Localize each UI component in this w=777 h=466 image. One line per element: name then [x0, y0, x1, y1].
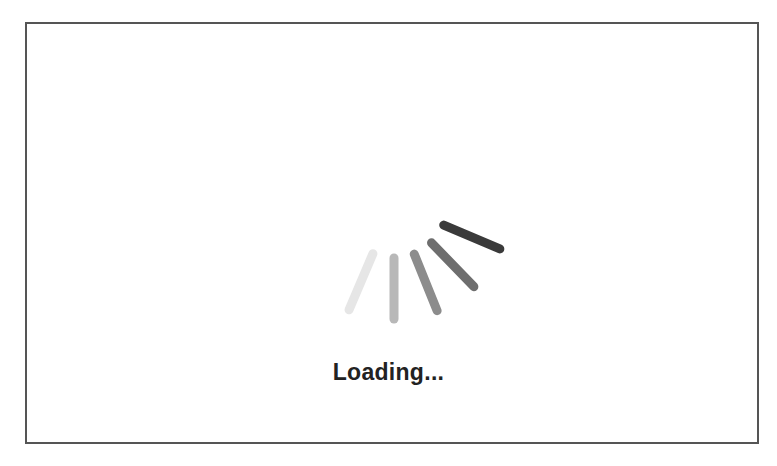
spinner-spoke — [432, 243, 474, 287]
loading-text: Loading... — [0, 359, 777, 386]
spinner-spoke — [414, 254, 437, 311]
spinner-spoke — [444, 225, 500, 249]
loading-spinner-icon — [0, 0, 777, 466]
spinner-spoke — [349, 254, 373, 310]
